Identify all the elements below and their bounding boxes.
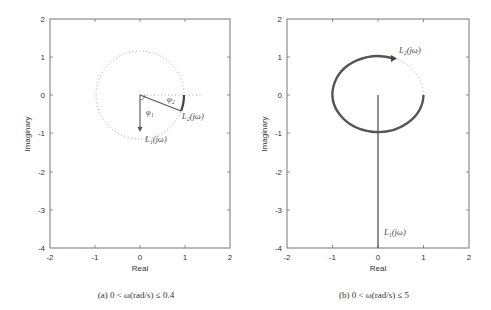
y-tick-label: 2 xyxy=(278,15,283,24)
x-tick-label: 2 xyxy=(228,253,233,262)
x-tick-label: 1 xyxy=(421,253,426,262)
L1-label: L₁(jω) xyxy=(144,134,167,144)
y-tick-label: -2 xyxy=(275,168,283,177)
panel-a: 2 1 0 -1 -2 -3 -4 -2 -1 0 1 2 Real Imagi… xyxy=(23,15,233,300)
y-tick-label: 1 xyxy=(278,53,283,62)
y-tick-label: 0 xyxy=(41,91,46,100)
plot-frame-a xyxy=(50,19,230,248)
phi1-label: φ₁ xyxy=(146,107,154,117)
y-tick-label: -4 xyxy=(38,244,46,253)
y-axis-label: Imaginary xyxy=(260,116,269,151)
x-tick-label: -2 xyxy=(46,253,54,262)
x-tick-label: 0 xyxy=(376,253,381,262)
figure: 2 1 0 -1 -2 -3 -4 -2 -1 0 1 2 Real Imagi… xyxy=(0,0,491,310)
L2-arrow-icon xyxy=(391,55,397,62)
x-axis-label: Real xyxy=(132,264,149,273)
y-tick-label: -2 xyxy=(38,168,46,177)
x-ticks-a xyxy=(95,19,185,248)
caption-a: (a) 0 < ω(rad/s) ≤ 0.4 xyxy=(98,290,175,300)
x-tick-label: 0 xyxy=(138,253,143,262)
L2-label: L₂(jω) xyxy=(181,111,204,121)
y-tick-label: -1 xyxy=(38,129,46,138)
L2-label: L₂(jω) xyxy=(398,45,421,55)
x-tick-label: -2 xyxy=(283,253,291,262)
y-ticks-a xyxy=(50,57,230,210)
L1-arrow-icon xyxy=(138,127,143,132)
x-tick-label: -1 xyxy=(329,253,337,262)
x-tick-label: -1 xyxy=(91,253,99,262)
unit-circle-remaining xyxy=(394,58,424,95)
x-axis-label: Real xyxy=(370,264,387,273)
y-tick-label: -3 xyxy=(275,206,283,215)
phi2-label: φ₂ xyxy=(167,94,175,104)
L1-label: L₁(jω) xyxy=(383,227,406,237)
y-tick-label: 0 xyxy=(278,91,283,100)
x-tick-label: 1 xyxy=(183,253,188,262)
x-tick-label: 2 xyxy=(467,253,472,262)
y-tick-label: 2 xyxy=(41,15,46,24)
y-tick-label: -1 xyxy=(275,129,283,138)
phi1-angle-arc xyxy=(140,97,145,100)
y-axis-label: Imaginary xyxy=(23,116,32,151)
y-tick-label: -4 xyxy=(275,244,283,253)
caption-b: (b) 0 < ω(rad/s) ≤ 5 xyxy=(339,290,410,300)
y-tick-label: -3 xyxy=(38,206,46,215)
panel-b: 2 1 0 -1 -2 -3 -4 -2 -1 0 1 2 Real Imagi… xyxy=(260,15,472,300)
y-tick-label: 1 xyxy=(41,53,46,62)
L2-curve xyxy=(181,95,184,111)
